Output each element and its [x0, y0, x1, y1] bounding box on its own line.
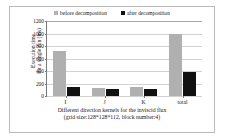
bar-group [163, 21, 202, 96]
x-axis-title: Different direction kernels for the invi… [10, 107, 214, 122]
y-axis-title-line2: for a single run (ms) [36, 28, 42, 74]
plot-area: 020040060080010001200 [46, 21, 202, 97]
bar [169, 34, 182, 97]
legend-swatch-before-icon [54, 11, 58, 15]
legend-entry-before: before decomposition [54, 10, 107, 16]
bar [53, 51, 66, 96]
bar [106, 89, 119, 96]
bar [144, 89, 157, 96]
x-tick-mark [105, 96, 106, 98]
gridline [47, 96, 202, 97]
bar-group [47, 21, 86, 96]
bar-groups [47, 21, 202, 96]
x-tick-mark [66, 96, 67, 98]
x-axis-title-line2: (grid size:128*128*112, block number:4) [10, 114, 214, 121]
x-tick-label: I [46, 99, 85, 106]
legend-swatch-after-icon [121, 11, 125, 15]
bar-group [86, 21, 125, 96]
x-axis-tick-labels: IJKtotal [46, 99, 202, 106]
bar [92, 88, 105, 96]
bar-group [125, 21, 164, 96]
x-tick-label: K [124, 99, 163, 106]
x-tick-label: J [85, 99, 124, 106]
bar [183, 72, 196, 96]
y-axis-title: Execution time for a single run (ms) [30, 13, 42, 89]
bar [67, 87, 80, 96]
y-tick-label: 0 [41, 93, 44, 99]
chart-figure: before decomposition after decomposition… [9, 6, 215, 133]
x-tick-mark [144, 96, 145, 98]
x-axis-title-line1: Different direction kernels for the invi… [10, 107, 214, 114]
legend-entry-after: after decomposition [121, 10, 170, 16]
x-tick-mark [183, 96, 184, 98]
legend-label-before: before decomposition [60, 10, 107, 16]
y-tick-mark [45, 96, 47, 97]
bar [130, 87, 143, 96]
legend-label-after: after decomposition [127, 10, 170, 16]
x-tick-label: total [163, 99, 202, 106]
